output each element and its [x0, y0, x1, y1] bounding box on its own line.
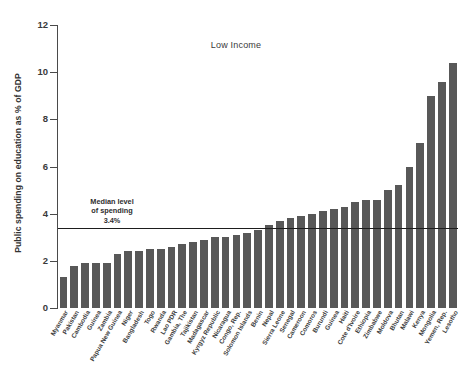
bar [265, 225, 273, 308]
bar-slot [101, 25, 112, 308]
bar [341, 207, 349, 308]
bar-slot [155, 25, 166, 308]
y-axis-tick-label: 6 [26, 161, 48, 172]
bar-slot [58, 25, 69, 308]
y-axis-tick [50, 119, 57, 120]
bar-slot [231, 25, 242, 308]
bar-slot [350, 25, 361, 308]
bar-slot [90, 25, 101, 308]
bar-slot [263, 25, 274, 308]
bar-series [58, 25, 458, 308]
bar [330, 209, 338, 308]
bar-slot [307, 25, 318, 308]
bar [438, 82, 446, 308]
bar [416, 143, 424, 308]
bar-slot [166, 25, 177, 308]
bar-slot [393, 25, 404, 308]
bar-slot [69, 25, 80, 308]
median-note-line-2: of spending [72, 206, 152, 216]
y-axis-tick-label: 10 [26, 66, 48, 77]
bar [103, 263, 111, 308]
plot-area [58, 25, 458, 308]
bar-slot [209, 25, 220, 308]
bar-slot [328, 25, 339, 308]
bar [124, 251, 132, 308]
y-axis-tick [50, 261, 57, 262]
bar [146, 249, 154, 308]
y-axis-tick-label: 4 [26, 208, 48, 219]
bar [395, 185, 403, 308]
bar-slot [296, 25, 307, 308]
y-axis-tick [50, 214, 57, 215]
y-axis-tick-label: 8 [26, 113, 48, 124]
bar-slot [426, 25, 437, 308]
bar-slot [382, 25, 393, 308]
bar [384, 190, 392, 308]
y-axis-tick-label: 2 [26, 255, 48, 266]
bar-slot [188, 25, 199, 308]
bar-slot [372, 25, 383, 308]
bar-slot [242, 25, 253, 308]
median-annotation: Median level of spending 3.4% [72, 197, 152, 226]
bar-slot [339, 25, 350, 308]
bar-slot [80, 25, 91, 308]
bar-slot [447, 25, 458, 308]
bar-slot [285, 25, 296, 308]
bar [233, 235, 241, 308]
bar [70, 266, 78, 308]
bar [319, 211, 327, 308]
bar [243, 233, 251, 308]
y-axis-tick [50, 167, 57, 168]
bar [135, 251, 143, 308]
median-note-line-3: 3.4% [72, 216, 152, 226]
bar-slot [145, 25, 156, 308]
y-axis-tick [50, 25, 57, 26]
bar-slot [253, 25, 264, 308]
bar [189, 242, 197, 308]
bar [157, 249, 165, 308]
bar [92, 263, 100, 308]
x-axis-labels: MyanmarPakistanCambodiaGuineaZambiaPapua… [58, 309, 458, 389]
y-axis-tick-label: 12 [26, 19, 48, 30]
bar [449, 63, 457, 308]
bar-slot [112, 25, 123, 308]
bar [297, 216, 305, 308]
bar-slot [274, 25, 285, 308]
bar [362, 200, 370, 308]
bar [427, 96, 435, 308]
bar [254, 230, 262, 308]
bar [351, 202, 359, 308]
bar-slot [415, 25, 426, 308]
bar-slot [220, 25, 231, 308]
bar [114, 254, 122, 308]
median-note-line-1: Median level [72, 197, 152, 207]
bar-slot [177, 25, 188, 308]
bar-slot [134, 25, 145, 308]
bar [406, 167, 414, 309]
y-axis-tick-label: 0 [26, 302, 48, 313]
median-reference-line [58, 228, 458, 229]
bar-slot [123, 25, 134, 308]
y-axis-title: Public spending on education as % of GDP [13, 23, 23, 303]
bar [60, 277, 68, 308]
bar [287, 218, 295, 308]
bar [222, 237, 230, 308]
bar-slot [318, 25, 329, 308]
chart-container: Low Income Public spending on education … [0, 0, 472, 390]
bar [178, 244, 186, 308]
y-axis-tick [50, 72, 57, 73]
bar-slot [436, 25, 447, 308]
bar-slot [361, 25, 372, 308]
bar [200, 240, 208, 308]
bar-slot [404, 25, 415, 308]
bar [81, 263, 89, 308]
bar [276, 221, 284, 308]
y-axis-tick [50, 308, 57, 309]
bar [373, 200, 381, 308]
bar [168, 247, 176, 308]
bar-slot [199, 25, 210, 308]
bar [211, 237, 219, 308]
